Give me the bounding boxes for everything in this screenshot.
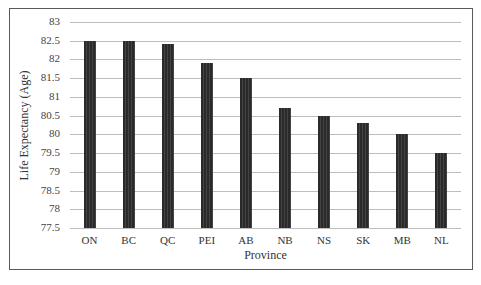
y-tick-label: 78.5 bbox=[4, 184, 60, 196]
bar-sk bbox=[357, 123, 369, 228]
bar-on bbox=[84, 41, 96, 228]
x-tick-label: NS bbox=[304, 234, 344, 246]
y-tick-label: 80.5 bbox=[4, 109, 60, 121]
x-tick-label: BC bbox=[109, 234, 149, 246]
y-tick-label: 77.5 bbox=[4, 221, 60, 233]
gridline bbox=[70, 22, 461, 23]
gridline bbox=[70, 228, 461, 229]
bar-qc bbox=[162, 44, 174, 228]
x-axis-label: Province bbox=[70, 248, 461, 263]
y-tick-label: 83 bbox=[4, 15, 60, 27]
x-tick-label: ON bbox=[70, 234, 110, 246]
x-tick-label: PEI bbox=[187, 234, 227, 246]
bar-nl bbox=[435, 153, 447, 228]
x-tick-label: NB bbox=[265, 234, 305, 246]
bar-pei bbox=[201, 63, 213, 228]
x-tick-label: SK bbox=[343, 234, 383, 246]
y-tick-label: 79 bbox=[4, 165, 60, 177]
y-tick-label: 82.5 bbox=[4, 34, 60, 46]
bar-ab bbox=[240, 78, 252, 228]
x-tick-label: QC bbox=[148, 234, 188, 246]
y-tick-label: 80 bbox=[4, 127, 60, 139]
bar-ns bbox=[318, 116, 330, 228]
bar-nb bbox=[279, 108, 291, 228]
y-tick-label: 81.5 bbox=[4, 71, 60, 83]
y-tick-label: 79.5 bbox=[4, 146, 60, 158]
y-tick-label: 78 bbox=[4, 202, 60, 214]
x-tick-label: NL bbox=[421, 234, 461, 246]
bar-bc bbox=[123, 41, 135, 228]
plot-area bbox=[70, 22, 461, 228]
x-tick-label: MB bbox=[382, 234, 422, 246]
bar-mb bbox=[396, 134, 408, 228]
y-tick-label: 81 bbox=[4, 90, 60, 102]
x-tick-label: AB bbox=[226, 234, 266, 246]
y-tick-label: 82 bbox=[4, 52, 60, 64]
